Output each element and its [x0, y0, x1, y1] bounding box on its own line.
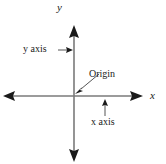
x-axis-callout-label: x axis	[91, 117, 115, 127]
x-axis-name-label: x	[150, 90, 155, 101]
y-axis-callout-label: y axis	[23, 44, 47, 54]
x-axis-callout-arrowhead	[102, 99, 108, 106]
y-axis-name-label: y	[57, 2, 62, 13]
origin-callout-label: Origin	[89, 69, 115, 79]
axes-drawing	[0, 0, 166, 164]
y-axis-callout-arrowhead	[66, 47, 73, 53]
coordinate-axes-figure: y x y axis x axis Origin	[0, 0, 166, 164]
